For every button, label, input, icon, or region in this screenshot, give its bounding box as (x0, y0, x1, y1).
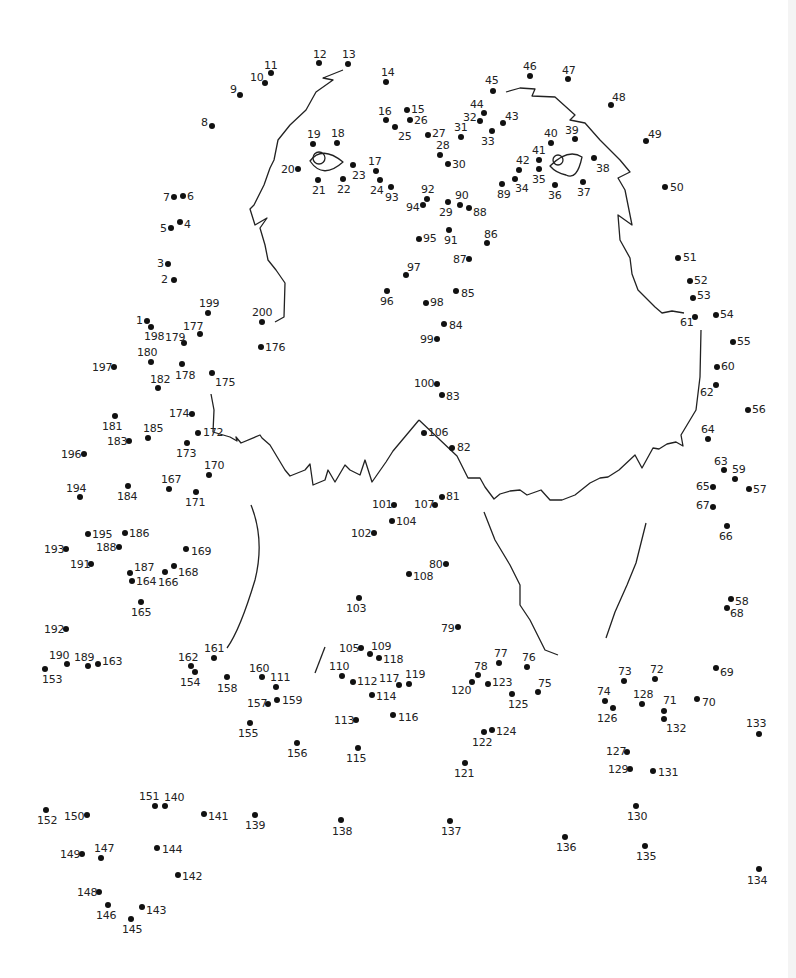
dot-60[interactable] (714, 364, 720, 370)
dot-96[interactable] (384, 288, 390, 294)
dot-123[interactable] (485, 681, 491, 687)
dot-28[interactable] (437, 152, 443, 158)
dot-17[interactable] (373, 168, 379, 174)
dot-195[interactable] (85, 531, 91, 537)
dot-180[interactable] (148, 359, 154, 365)
dot-166[interactable] (162, 569, 168, 575)
dot-2[interactable] (171, 277, 177, 283)
dot-110[interactable] (339, 673, 345, 679)
dot-111[interactable] (273, 684, 279, 690)
dot-178[interactable] (179, 361, 185, 367)
dot-121[interactable] (462, 760, 468, 766)
dot-19[interactable] (310, 141, 316, 147)
dot-171[interactable] (193, 489, 199, 495)
dot-73[interactable] (621, 678, 627, 684)
dot-131[interactable] (650, 768, 656, 774)
dot-52[interactable] (687, 278, 693, 284)
dot-153[interactable] (42, 666, 48, 672)
dot-134[interactable] (756, 866, 762, 872)
dot-170[interactable] (206, 472, 212, 478)
dot-30[interactable] (445, 161, 451, 167)
dot-53[interactable] (690, 295, 696, 301)
dot-173[interactable] (184, 440, 190, 446)
dot-7[interactable] (171, 194, 177, 200)
dot-74[interactable] (602, 698, 608, 704)
dot-6[interactable] (180, 193, 186, 199)
dot-136[interactable] (562, 834, 568, 840)
dot-26[interactable] (407, 117, 413, 123)
dot-64[interactable] (705, 436, 711, 442)
dot-91[interactable] (446, 227, 452, 233)
dot-51[interactable] (675, 255, 681, 261)
dot-82[interactable] (449, 445, 455, 451)
dot-150[interactable] (84, 812, 90, 818)
dot-98[interactable] (423, 300, 429, 306)
dot-13[interactable] (345, 61, 351, 67)
dot-41[interactable] (536, 157, 542, 163)
dot-152[interactable] (43, 807, 49, 813)
dot-188[interactable] (116, 544, 122, 550)
dot-126[interactable] (610, 705, 616, 711)
dot-130[interactable] (633, 803, 639, 809)
dot-8[interactable] (209, 123, 215, 129)
dot-50[interactable] (662, 184, 668, 190)
dot-99[interactable] (434, 336, 440, 342)
dot-200[interactable] (259, 319, 265, 325)
dot-184[interactable] (125, 483, 131, 489)
dot-18[interactable] (334, 140, 340, 146)
dot-108[interactable] (406, 571, 412, 577)
dot-81[interactable] (439, 494, 445, 500)
dot-199[interactable] (205, 310, 211, 316)
dot-38[interactable] (591, 155, 597, 161)
dot-138[interactable] (338, 817, 344, 823)
dot-116[interactable] (390, 712, 396, 718)
dot-67[interactable] (710, 504, 716, 510)
dot-104[interactable] (389, 518, 395, 524)
dot-151[interactable] (152, 803, 158, 809)
dot-66[interactable] (724, 523, 730, 529)
dot-77[interactable] (496, 660, 502, 666)
dot-85[interactable] (453, 288, 459, 294)
dot-56[interactable] (745, 407, 751, 413)
dot-40[interactable] (548, 140, 554, 146)
dot-139[interactable] (252, 812, 258, 818)
dot-92[interactable] (424, 196, 430, 202)
dot-174[interactable] (189, 411, 195, 417)
dot-46[interactable] (527, 73, 533, 79)
dot-158[interactable] (224, 674, 230, 680)
dot-147[interactable] (98, 855, 104, 861)
dot-95[interactable] (416, 236, 422, 242)
dot-59[interactable] (732, 476, 738, 482)
dot-23[interactable] (350, 162, 356, 168)
dot-3[interactable] (165, 261, 171, 267)
dot-4[interactable] (177, 219, 183, 225)
dot-155[interactable] (247, 720, 253, 726)
dot-118[interactable] (376, 655, 382, 661)
dot-181[interactable] (112, 413, 118, 419)
dot-58[interactable] (728, 596, 734, 602)
dot-88[interactable] (466, 205, 472, 211)
dot-187[interactable] (127, 570, 133, 576)
dot-167[interactable] (166, 486, 172, 492)
dot-100[interactable] (434, 381, 440, 387)
dot-145[interactable] (128, 916, 134, 922)
dot-20[interactable] (295, 166, 301, 172)
dot-72[interactable] (652, 676, 658, 682)
dot-15[interactable] (404, 107, 410, 113)
dot-176[interactable] (258, 344, 264, 350)
dot-165[interactable] (138, 599, 144, 605)
dot-84[interactable] (441, 321, 447, 327)
dot-185[interactable] (145, 435, 151, 441)
dot-65[interactable] (710, 484, 716, 490)
dot-32[interactable] (477, 118, 483, 124)
dot-29[interactable] (445, 199, 451, 205)
dot-54[interactable] (713, 312, 719, 318)
dot-90[interactable] (457, 202, 463, 208)
dot-128[interactable] (639, 701, 645, 707)
dot-154[interactable] (192, 669, 198, 675)
dot-115[interactable] (355, 745, 361, 751)
dot-119[interactable] (406, 681, 412, 687)
dot-5[interactable] (168, 225, 174, 231)
dot-37[interactable] (580, 179, 586, 185)
dot-112[interactable] (350, 679, 356, 685)
